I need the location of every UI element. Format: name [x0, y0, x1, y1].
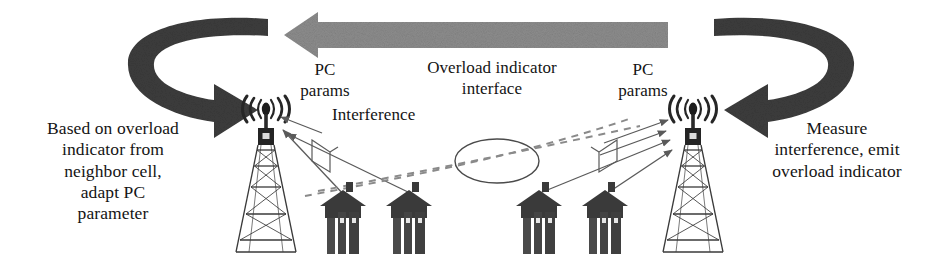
- user-terminal-1: [320, 182, 366, 254]
- base-station-tower-right: [663, 96, 723, 252]
- label-left-policy: Based on overload indicator from neighbo…: [8, 118, 218, 225]
- label-pc-params-right: PC params: [606, 60, 680, 101]
- label-overload-indicator-interface: Overload indicator interface: [392, 58, 592, 99]
- label-interference: Interference: [332, 105, 482, 126]
- serving-links-right: [540, 140, 672, 194]
- power-control-arrows-left: [281, 117, 322, 133]
- user-terminal-3: [516, 182, 562, 254]
- overload-indicator-arrow: [284, 12, 668, 58]
- interference-zone-ellipse: [455, 139, 539, 183]
- user-terminal-2: [386, 182, 432, 254]
- interference-dashed-paths: [305, 118, 640, 196]
- user-terminal-4: [582, 182, 628, 254]
- diagram-canvas: Based on overload indicator from neighbo…: [0, 0, 925, 276]
- label-right-policy: Measure interference, emit overload indi…: [752, 118, 922, 182]
- label-pc-params-left: PC params: [288, 60, 362, 101]
